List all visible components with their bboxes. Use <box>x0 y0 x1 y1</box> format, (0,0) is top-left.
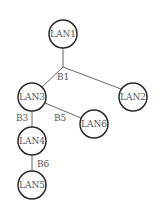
node-label-lan3: LAN3 <box>19 92 45 102</box>
bridge-label-b1: B1 <box>57 72 69 82</box>
node-lan6: LAN6 <box>80 110 108 138</box>
node-lan1: LAN1 <box>49 20 77 48</box>
node-label-lan6: LAN6 <box>81 119 107 129</box>
node-label-lan2: LAN2 <box>120 92 146 102</box>
link-b1-lan2 <box>63 67 121 89</box>
bridge-label-b5: B5 <box>54 113 67 123</box>
node-lan4: LAN4 <box>18 127 46 155</box>
lan-bridge-tree-diagram: B1 B3 B5 B6 LAN1 LAN2 LAN3 LAN4 LAN5 LAN… <box>0 0 160 211</box>
node-lan3: LAN3 <box>18 83 46 111</box>
node-lan2: LAN2 <box>119 83 147 111</box>
bridge-label-b6: B6 <box>37 159 50 169</box>
node-label-lan4: LAN4 <box>19 136 45 146</box>
node-label-lan5: LAN5 <box>19 180 45 190</box>
bridge-label-b3: B3 <box>16 113 29 123</box>
node-lan5: LAN5 <box>18 171 46 199</box>
node-label-lan1: LAN1 <box>50 29 76 39</box>
